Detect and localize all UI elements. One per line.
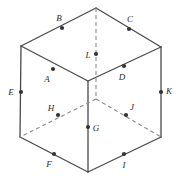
edge-top-left-to-top-front xyxy=(21,46,88,81)
point-d-label: D xyxy=(119,73,126,82)
point-d-marker xyxy=(122,64,126,68)
point-e-label: E xyxy=(8,88,14,97)
edge-bottom-back-to-bottom-left-hidden xyxy=(20,99,96,137)
point-a-marker xyxy=(51,67,55,71)
point-e-marker xyxy=(19,90,23,94)
solid-edge-group xyxy=(20,8,161,172)
point-f-marker xyxy=(52,152,56,156)
point-c-marker xyxy=(127,27,131,31)
point-h-marker xyxy=(56,113,60,117)
point-l-marker xyxy=(94,52,98,56)
point-j-label: J xyxy=(130,103,134,112)
point-l-label: L xyxy=(85,51,90,60)
point-f-label: F xyxy=(46,160,52,169)
point-c-label: C xyxy=(127,15,133,24)
point-j-marker xyxy=(124,113,128,117)
point-k-marker xyxy=(159,90,163,94)
point-g-label: G xyxy=(93,124,100,133)
edge-bottom-back-to-bottom-right-hidden xyxy=(96,99,161,137)
point-i-label: I xyxy=(123,161,126,170)
cube-figure: ABCDEFGHIJKL xyxy=(0,0,176,180)
point-i-marker xyxy=(122,152,126,156)
hidden-edge-group xyxy=(20,8,161,137)
point-h-label: H xyxy=(48,104,55,113)
point-k-label: K xyxy=(166,87,172,96)
cube-drawing xyxy=(0,0,176,180)
point-a-label: A xyxy=(44,75,50,84)
point-g-marker xyxy=(86,125,90,129)
point-b-label: B xyxy=(56,14,62,23)
point-b-marker xyxy=(60,26,64,30)
midpoint-marker-group xyxy=(19,26,163,156)
